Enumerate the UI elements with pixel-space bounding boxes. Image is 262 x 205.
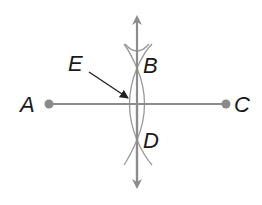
arc-cross-D-left <box>124 140 137 165</box>
arc-cross-B-left <box>124 44 137 68</box>
point-C <box>222 100 231 109</box>
label-A: A <box>18 92 35 117</box>
label-B: B <box>143 53 158 78</box>
pointer-arrow-E <box>89 72 128 98</box>
label-D: D <box>143 128 159 153</box>
perpendicular-bisector-diagram: A B C D E <box>0 0 262 205</box>
point-A <box>45 100 54 109</box>
label-C: C <box>234 92 250 117</box>
label-E: E <box>68 51 83 76</box>
